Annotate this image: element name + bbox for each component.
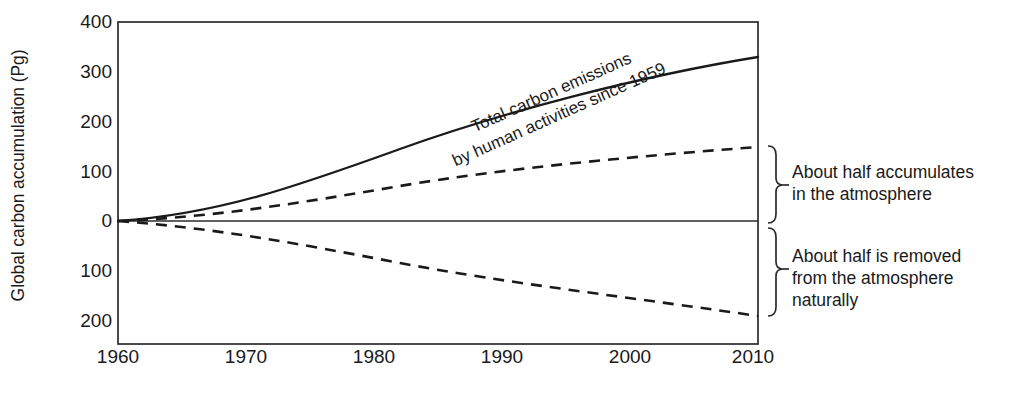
upper-annotation: About half accumulates in the atmosphere	[792, 161, 974, 205]
lower-brace	[768, 228, 789, 316]
upper-annotation-line-2: in the atmosphere	[792, 183, 974, 205]
x-tick-2000: 2000	[585, 347, 675, 366]
x-axis-tick-labels: 1960 1970 1980 1990 2000 2010	[0, 347, 1030, 377]
series-atmosphere-accumulation	[118, 147, 758, 221]
lower-annotation-line-2: from the atmosphere	[792, 267, 961, 289]
chart-figure: Global carbon accumulation (Pg) 400 300 …	[0, 0, 1030, 398]
x-tick-1980: 1980	[329, 347, 419, 366]
series-total-emissions	[118, 57, 758, 221]
upper-brace	[768, 146, 789, 223]
lower-annotation-line-3: naturally	[792, 289, 961, 311]
series-natural-removal	[118, 221, 758, 316]
x-tick-1970: 1970	[201, 347, 291, 366]
lower-annotation: About half is removed from the atmospher…	[792, 245, 961, 312]
lower-annotation-line-1: About half is removed	[792, 245, 961, 267]
x-tick-2010: 2010	[708, 347, 798, 366]
upper-annotation-line-1: About half accumulates	[792, 161, 974, 183]
x-tick-1960: 1960	[73, 347, 163, 366]
x-tick-1990: 1990	[457, 347, 547, 366]
